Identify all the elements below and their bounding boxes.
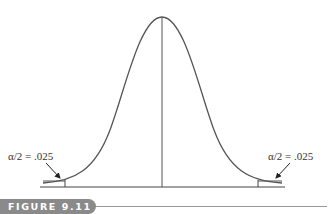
left-arrow-icon bbox=[46, 163, 60, 178]
right-tail-label: α/2 = .025 bbox=[268, 150, 314, 162]
normal-curve-figure: α/2 = .025 α/2 = .025 bbox=[0, 0, 333, 214]
figure-caption: FIGURE 9.11 bbox=[0, 199, 96, 214]
caption-divider bbox=[96, 206, 327, 207]
left-tail-label: α/2 = .025 bbox=[8, 150, 54, 162]
right-arrow-icon bbox=[276, 163, 290, 178]
